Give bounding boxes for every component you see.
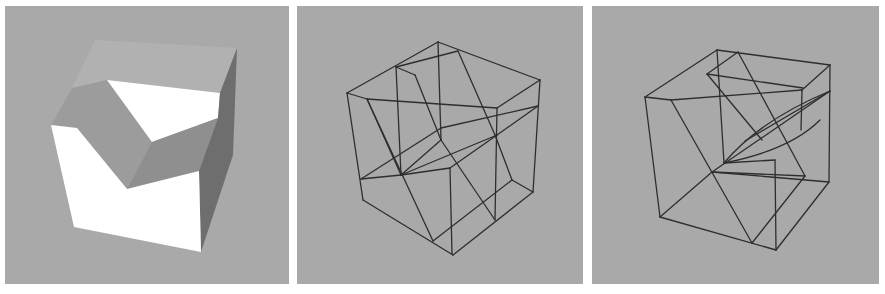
wireframe-2-edge [802,65,830,90]
wireframe-1-edge [512,180,533,192]
wireframe-1-edge [396,67,415,75]
wireframe-1-edge [367,99,497,108]
wireframe-1-edge [495,108,497,220]
wireframe-2-edge [660,217,776,250]
wireframe-1-edge [396,51,458,67]
wireframe-2-edge [660,172,712,217]
wireframe-1-edge [347,42,438,93]
wireframe-2-edge [671,100,752,243]
wireframe-2-edge [707,74,803,88]
wireframe-2-edge [752,176,805,243]
wireframe-1-edge [438,42,540,80]
wireframe-1-edge [497,80,540,108]
wireframe-2-edge [645,97,660,217]
wireframe-1-edge [441,140,495,220]
wireframe-1-edge [363,200,453,255]
wireframe-2-edge [645,97,671,100]
wireframe-2-edge [776,182,829,250]
wireframe-1-edge [433,180,512,241]
wireframe-1-edge [347,93,367,99]
wireframe-2-edge [707,52,738,74]
wireframe-2-edge [775,160,776,250]
wireframe-1-edge [401,135,497,175]
wireframe-1-edge [347,93,363,200]
wireframe-1-edge [450,168,452,254]
wireframe-2-edge [712,172,829,182]
wireframe-2-edge [671,90,802,100]
wireframe-1-edge [495,135,512,180]
wireframe-2-curved-section [724,120,820,163]
wireframe-2-edge [717,50,830,65]
wireframe-2-edge [645,50,717,97]
figure-canvas [0,0,885,294]
wireframe-2-edge [829,65,830,182]
wireframe-1-edge [533,80,540,192]
wireframe-1-edge [453,192,533,255]
wireframe-2-edge [745,91,830,141]
wireframe-2-edge [707,74,762,140]
wireframe-1-edge [396,67,401,175]
